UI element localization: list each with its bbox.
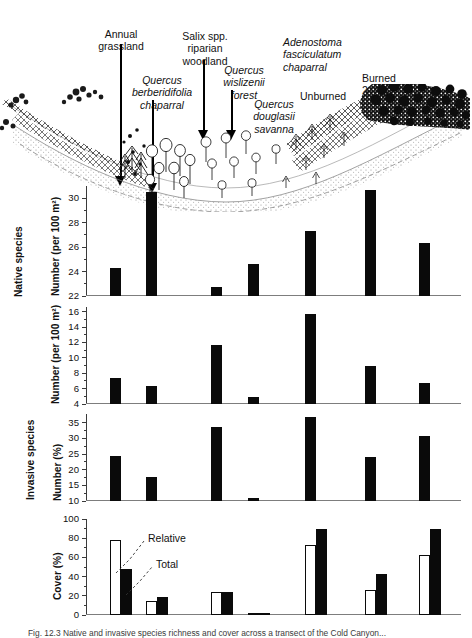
y-tick-label: 0: [46, 610, 79, 620]
bar: [248, 397, 259, 404]
y-tick-label: 80: [46, 533, 79, 543]
y-tick: [82, 501, 86, 502]
y-tick: [82, 222, 86, 223]
bar: [248, 498, 259, 501]
bar: [365, 190, 376, 296]
y-tick: [82, 342, 86, 343]
y-tick: [82, 485, 86, 486]
y-minor-tick: [84, 605, 87, 606]
bar: [305, 314, 316, 404]
plot-area-p2: [86, 414, 461, 501]
y-minor-tick: [84, 334, 87, 335]
plot-area-p1: [86, 307, 461, 404]
y-tick: [82, 469, 86, 470]
y-minor-tick: [84, 567, 87, 568]
y-tick: [82, 311, 86, 312]
bar-relative: [248, 613, 259, 615]
y-minor-tick: [84, 365, 87, 366]
bar-total: [430, 529, 441, 615]
y-minor-tick: [84, 259, 87, 260]
y-tick: [82, 538, 86, 539]
y-tick: [82, 296, 86, 297]
y-minor-tick: [84, 461, 87, 462]
y-minor-tick: [84, 234, 87, 235]
y-tick: [82, 357, 86, 358]
group-title-native-species: Native species: [13, 226, 24, 297]
y-minor-tick: [84, 210, 87, 211]
plot-area-p0: [86, 186, 461, 296]
y-minor-tick: [84, 586, 87, 587]
bar: [419, 243, 430, 296]
y-minor-tick: [84, 396, 87, 397]
y-minor-tick: [84, 380, 87, 381]
y-minor-tick: [84, 283, 87, 284]
y-tick: [82, 576, 86, 577]
y-tick: [82, 247, 86, 248]
panel-native-number: 2224262830: [86, 186, 461, 296]
bar: [211, 427, 222, 501]
y-minor-tick: [84, 528, 87, 529]
figure-caption: Fig. 12.3 Native and invasive species ri…: [28, 628, 386, 638]
y-minor-tick: [84, 446, 87, 447]
y-tick-label: 100: [46, 514, 79, 524]
y-tick: [82, 519, 86, 520]
y-tick: [82, 422, 86, 423]
bar: [110, 378, 121, 404]
bar-total: [222, 592, 233, 615]
y-tick: [82, 271, 86, 272]
y-tick: [82, 373, 86, 374]
bar: [365, 366, 376, 404]
bar-relative: [365, 590, 376, 615]
y-axis-title-p0: Number (per 100 m²): [50, 197, 61, 296]
group-title-invasive-species: Invasive species: [25, 420, 36, 500]
y-tick: [82, 388, 86, 389]
bar-total: [259, 613, 270, 615]
bar-relative: [305, 545, 316, 615]
y-tick: [82, 404, 86, 405]
y-tick: [82, 595, 86, 596]
y-tick-label: 30: [46, 433, 79, 443]
y-tick: [82, 327, 86, 328]
y-tick: [82, 557, 86, 558]
bar: [305, 417, 316, 501]
bar: [305, 231, 316, 296]
y-axis-title-p2: Number (%): [52, 444, 63, 501]
y-tick-label: 35: [46, 418, 79, 428]
y-axis-title-p3: Cover (%): [52, 552, 63, 600]
bar: [248, 264, 259, 296]
bar: [419, 383, 430, 404]
bar: [365, 457, 376, 501]
y-axis-title-p1: Number (per 100 m²): [50, 305, 61, 404]
y-minor-tick: [84, 319, 87, 320]
y-tick: [82, 454, 86, 455]
panel-invasive-percent: 101520253035: [86, 414, 461, 501]
y-minor-tick: [84, 350, 87, 351]
bar: [146, 477, 157, 501]
bar-relative: [211, 592, 222, 615]
y-minor-tick: [84, 547, 87, 548]
bar: [110, 268, 121, 296]
panel-invasive-number: 46810121416: [86, 307, 461, 404]
legend-label-relative: Relative: [148, 532, 186, 544]
bar-total: [316, 529, 327, 615]
y-minor-tick: [84, 477, 87, 478]
y-minor-tick: [84, 493, 87, 494]
bar: [419, 436, 430, 501]
bar: [110, 456, 121, 501]
bar: [211, 287, 222, 296]
y-tick: [82, 438, 86, 439]
legend-label-total: Total: [156, 558, 178, 570]
bar-total: [157, 597, 168, 615]
y-minor-tick: [84, 430, 87, 431]
bar-total: [376, 574, 387, 615]
y-tick: [82, 615, 86, 616]
bar: [211, 345, 222, 404]
bar-relative: [146, 601, 157, 615]
bar: [146, 192, 157, 296]
bar: [146, 386, 157, 404]
y-tick: [82, 198, 86, 199]
bar-relative: [419, 555, 430, 615]
